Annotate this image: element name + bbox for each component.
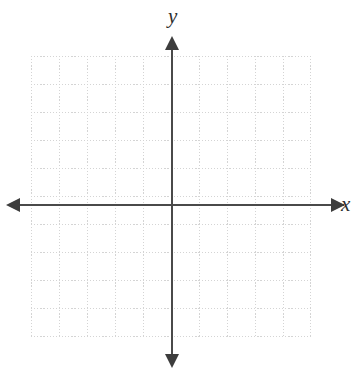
y-axis-down-arrow-icon xyxy=(165,354,179,368)
y-axis-label: y xyxy=(168,6,177,27)
coordinate-plane-figure: y x xyxy=(0,0,364,375)
x-axis-line xyxy=(14,204,344,206)
y-axis-up-arrow-icon xyxy=(165,36,179,50)
y-axis-line xyxy=(171,42,173,364)
x-axis-left-arrow-icon xyxy=(6,198,20,212)
x-axis-label: x xyxy=(341,194,350,215)
